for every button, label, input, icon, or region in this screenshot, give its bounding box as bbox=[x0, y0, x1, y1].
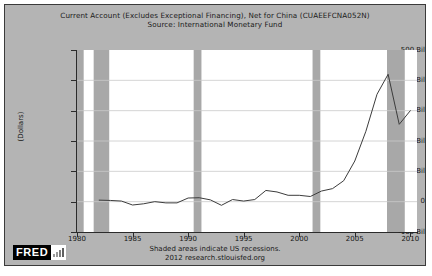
fred-logo: FRED bbox=[13, 245, 66, 260]
y-tick-mark bbox=[71, 232, 76, 233]
y-tick-mark bbox=[71, 202, 76, 203]
x-tick-mark bbox=[77, 233, 78, 237]
grid-lines bbox=[77, 80, 417, 201]
x-tick-label: 2010 bbox=[390, 236, 426, 243]
x-tick-mark bbox=[299, 233, 300, 237]
chart-title-block: Current Account (Excludes Exceptional Fi… bbox=[5, 11, 425, 29]
x-tick-label: 1995 bbox=[224, 236, 264, 243]
plot-svg bbox=[77, 50, 417, 232]
bar-chart-icon bbox=[53, 248, 64, 257]
recession-note: Shaded areas indicate US recessions. bbox=[5, 245, 425, 254]
x-tick-label: 2000 bbox=[279, 236, 319, 243]
data-series-line bbox=[99, 74, 410, 205]
chart-footer: Shaded areas indicate US recessions. 201… bbox=[5, 245, 425, 263]
fred-chart-figure: Current Account (Excludes Exceptional Fi… bbox=[0, 0, 432, 276]
x-tick-label: 2005 bbox=[335, 236, 375, 243]
x-tick-mark bbox=[355, 233, 356, 237]
fred-wordmark: FRED bbox=[13, 245, 51, 260]
cropped-caption bbox=[6, 270, 226, 276]
x-tick-label: 1985 bbox=[113, 236, 153, 243]
x-tick-mark bbox=[133, 233, 134, 237]
y-tick-mark bbox=[71, 111, 76, 112]
y-tick-mark bbox=[71, 80, 76, 81]
x-tick-label: 1980 bbox=[57, 236, 97, 243]
y-tick-mark bbox=[71, 50, 76, 51]
y-axis-title: (Dollars) bbox=[18, 97, 25, 157]
y-tick-mark bbox=[71, 141, 76, 142]
chart-canvas: Current Account (Excludes Exceptional Fi… bbox=[4, 4, 426, 266]
x-tick-label: 1990 bbox=[168, 236, 208, 243]
source-url: 2012 research.stlouisfed.org bbox=[5, 254, 425, 263]
x-tick-mark bbox=[244, 233, 245, 237]
x-tick-mark bbox=[410, 233, 411, 237]
plot-area bbox=[77, 50, 417, 232]
x-tick-mark bbox=[188, 233, 189, 237]
chart-subtitle: Source: International Monetary Fund bbox=[5, 20, 425, 29]
page-title: Current Account (Excludes Exceptional Fi… bbox=[5, 11, 425, 20]
y-tick-mark bbox=[71, 171, 76, 172]
